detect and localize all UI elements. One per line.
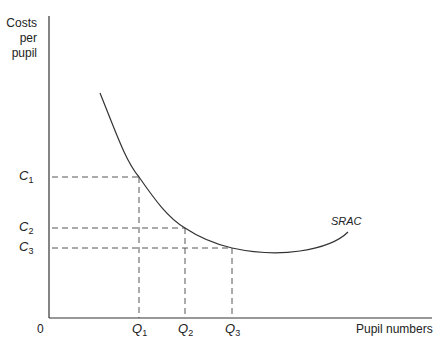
y-axis-label-line: Costs	[6, 16, 37, 31]
y-axis-label-line: per	[6, 31, 37, 46]
origin-label: 0	[37, 322, 44, 336]
y-axis-label-line: pupil	[6, 46, 37, 61]
x-tick-q2: Q2	[178, 322, 193, 340]
x-tick-q3: Q3	[225, 322, 240, 340]
srac-label: SRAC	[331, 214, 362, 228]
y-tick-c3: C3	[19, 240, 33, 258]
x-tick-q1: Q1	[132, 322, 147, 340]
y-tick-c1: C1	[19, 169, 33, 187]
x-axis-label: Pupil numbers	[356, 322, 433, 336]
srac-curve	[100, 93, 348, 253]
srac-diagram: Costs per pupil C1 C2 C3 0 Q1 Q2 Q3 Pupi…	[0, 0, 446, 353]
diagram-canvas	[0, 0, 446, 353]
y-tick-c2: C2	[19, 220, 33, 238]
y-axis-label: Costs per pupil	[6, 16, 37, 61]
